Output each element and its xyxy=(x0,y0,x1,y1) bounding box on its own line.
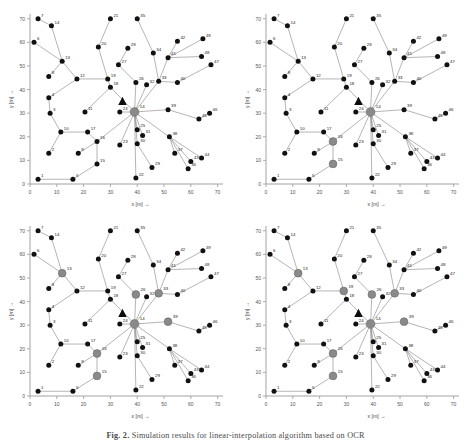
node-label: 34 xyxy=(392,259,397,264)
node-label: 11 xyxy=(324,318,329,323)
x-tick-label: 10 xyxy=(290,401,296,407)
network-edge xyxy=(334,259,343,291)
node-label: 1 xyxy=(277,173,280,178)
sensor-node xyxy=(380,82,385,87)
sensor-node xyxy=(321,130,326,135)
x-tick-label: 50 xyxy=(397,189,403,195)
network-edge xyxy=(51,26,62,61)
sensor-node xyxy=(199,368,204,373)
sensor-node xyxy=(282,95,287,100)
node-label: 40 xyxy=(416,76,421,81)
y-tick-label: 40 xyxy=(255,299,261,305)
x-axis-label: x [m] → xyxy=(132,201,150,207)
node-label: 21 xyxy=(349,13,354,18)
sensor-node xyxy=(96,257,101,262)
x-tick-label: 70 xyxy=(451,189,457,195)
node-label: 10 xyxy=(300,126,305,131)
node-label: 16 xyxy=(102,346,107,351)
sensor-node xyxy=(85,342,90,347)
sink-triangle-marker xyxy=(354,309,362,317)
node-label: 33 xyxy=(399,286,404,291)
sensor-node xyxy=(74,76,79,81)
node-label: 26 xyxy=(139,76,144,81)
x-tick-label: 0 xyxy=(265,401,268,407)
selected-node xyxy=(366,320,375,329)
x-tick-label: 70 xyxy=(215,401,221,407)
sink-triangle-marker xyxy=(118,97,126,105)
node-label: 19 xyxy=(347,73,352,78)
node-label: 41 xyxy=(171,51,176,56)
sensor-node xyxy=(125,258,130,263)
sensor-node xyxy=(294,342,299,347)
node-label: 15 xyxy=(102,369,107,374)
node-label: 40 xyxy=(180,288,185,293)
selected-node xyxy=(329,160,337,168)
sensor-node xyxy=(116,62,121,67)
node-label: 32 xyxy=(150,291,155,296)
sensor-node xyxy=(444,274,449,279)
selected-node xyxy=(340,287,348,295)
sensor-node xyxy=(199,266,204,271)
node-label: 37 xyxy=(178,359,183,364)
sensor-node xyxy=(46,286,51,291)
sensor-node xyxy=(310,288,315,293)
node-label: 35 xyxy=(376,225,381,230)
x-axis-label: x [m] → xyxy=(368,201,386,207)
network-edge xyxy=(286,113,297,132)
sensor-node xyxy=(172,151,177,156)
sensor-node xyxy=(151,262,156,267)
node-label: 25 xyxy=(140,335,145,340)
network-edge xyxy=(270,254,298,273)
node-label: 31 xyxy=(146,341,151,346)
scatter-panel-top-left: 010203040506070010203040506070x [m] →y [… xyxy=(0,0,235,212)
sensor-node xyxy=(285,23,290,28)
sensor-node xyxy=(411,39,416,44)
node-label: 7 xyxy=(277,225,280,230)
sensor-node xyxy=(49,235,54,240)
node-label: 27 xyxy=(357,271,362,276)
sensor-node xyxy=(352,274,357,279)
sensor-node xyxy=(436,36,441,41)
sensor-node xyxy=(140,345,145,350)
network-edge xyxy=(389,265,394,293)
sensor-node xyxy=(166,267,171,272)
y-tick-label: 0 xyxy=(22,181,25,187)
node-label: 22 xyxy=(375,172,380,177)
node-label: 33 xyxy=(398,75,403,80)
selected-node xyxy=(155,289,163,297)
selected-node xyxy=(368,291,376,299)
y-tick-label: 70 xyxy=(255,16,261,22)
node-label: 49 xyxy=(206,245,211,250)
network-edge xyxy=(51,238,62,273)
node-label: 43 xyxy=(194,155,199,160)
panel-plot: 010203040506070010203040506070x [m] →y [… xyxy=(0,0,235,212)
node-label: 42 xyxy=(180,35,185,40)
y-axis-label: y [m] → xyxy=(8,90,14,108)
selected-node xyxy=(58,269,66,277)
sensor-node xyxy=(344,228,349,233)
sensor-node xyxy=(58,342,63,347)
sensor-node xyxy=(108,85,113,90)
node-label: 48 xyxy=(441,50,446,55)
y-tick-label: 10 xyxy=(255,157,261,163)
node-label: 24 xyxy=(123,106,128,111)
node-label: 14 xyxy=(376,316,381,321)
network-edge xyxy=(34,254,62,273)
sensor-node xyxy=(387,262,392,267)
node-label: 42 xyxy=(180,247,185,252)
sensor-node xyxy=(74,288,79,293)
node-label: 27 xyxy=(121,59,126,64)
y-tick-label: 70 xyxy=(255,228,261,234)
network-edge xyxy=(62,61,77,79)
node-label: 8 xyxy=(288,70,291,75)
x-tick-label: 10 xyxy=(290,189,296,195)
network-edge xyxy=(50,325,61,344)
node-label: 28 xyxy=(131,42,136,47)
node-label: 12 xyxy=(316,285,321,290)
sensor-node xyxy=(422,166,427,171)
sensor-node xyxy=(70,389,75,394)
node-label: 13 xyxy=(67,266,72,271)
network-edge xyxy=(405,137,424,169)
node-label: 46 xyxy=(449,319,454,324)
x-tick-label: 40 xyxy=(134,401,140,407)
